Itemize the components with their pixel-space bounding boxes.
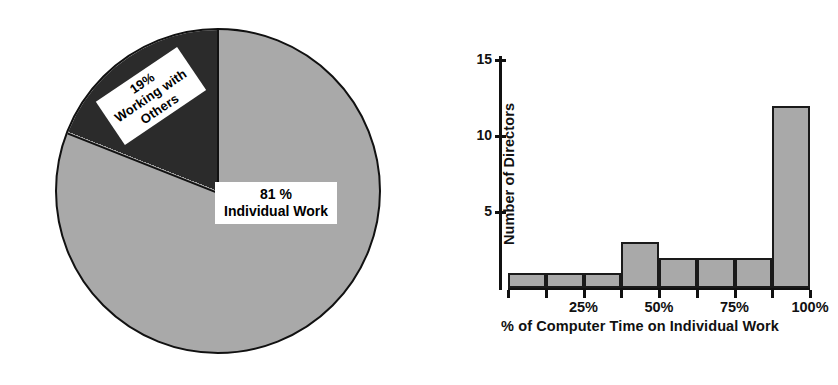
- bar: [772, 106, 810, 288]
- bar: [508, 273, 546, 288]
- bar: [659, 258, 697, 288]
- figure-two-panel-charts: 19% Working with Others 81 % Individual …: [0, 0, 838, 385]
- bar: [584, 273, 622, 288]
- pie-chart: 19% Working with Others 81 % Individual …: [55, 28, 385, 358]
- bar-chart: Number of Directors 15105 25%50%75%100% …: [430, 0, 838, 385]
- bar: [546, 273, 584, 288]
- x-axis-title: % of Computer Time on Individual Work: [455, 318, 825, 334]
- bar: [697, 258, 735, 288]
- bar: [735, 258, 773, 288]
- pie-label-individual-work: 81 % Individual Work: [215, 182, 337, 224]
- pie-slice-divider-vertical: [217, 30, 219, 191]
- bar: [621, 242, 659, 288]
